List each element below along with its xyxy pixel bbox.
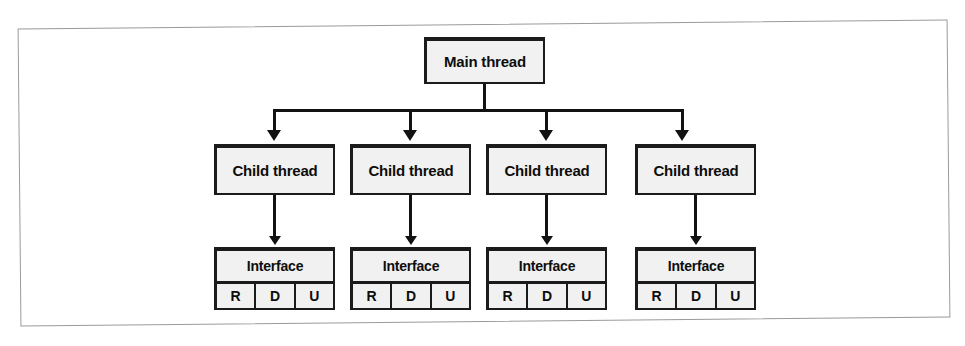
interface-4-cell-r: R	[638, 284, 677, 308]
arrowhead-child-1-to-interface-1	[269, 236, 281, 245]
node-child-thread-4-label: Child thread	[653, 163, 738, 178]
node-main-thread-label: Main thread	[444, 54, 526, 69]
interface-4-cell-d: D	[677, 284, 716, 308]
interface-1-cell-row: R D U	[217, 284, 333, 308]
node-main-thread: Main thread	[424, 37, 545, 84]
connector-bus-to-child-4	[681, 109, 684, 131]
connector-child-4-to-interface-4	[694, 195, 697, 237]
node-interface-3: Interface R D U	[486, 247, 607, 310]
node-child-thread-1-label: Child thread	[232, 163, 317, 178]
interface-1-cell-d-label: D	[270, 289, 280, 303]
interface-2-cell-u: U	[432, 284, 469, 308]
node-interface-2: Interface R D U	[350, 247, 471, 310]
node-interface-1: Interface R D U	[214, 247, 335, 310]
connector-bus-horizontal	[274, 109, 683, 112]
interface-3-cell-d-label: D	[542, 289, 552, 303]
interface-2-header-label: Interface	[383, 259, 440, 273]
connector-child-3-to-interface-3	[545, 195, 548, 237]
arrowhead-child-2-to-interface-2	[405, 236, 417, 245]
interface-1-header-label: Interface	[247, 259, 304, 273]
connector-child-1-to-interface-1	[273, 195, 276, 237]
figure-root: Main thread Child thread Interface R	[0, 0, 965, 346]
interface-3-cell-d: D	[528, 284, 567, 308]
interface-2-cell-row: R D U	[353, 284, 469, 308]
interface-1-cell-d: D	[256, 284, 295, 308]
interface-1-header: Interface	[217, 251, 333, 284]
interface-2-cell-d: D	[392, 284, 431, 308]
interface-3-cell-u-label: U	[581, 289, 591, 303]
arrowhead-bus-to-child-4	[675, 130, 689, 141]
interface-4-cell-u-label: U	[730, 289, 740, 303]
interface-4-cell-row: R D U	[638, 284, 754, 308]
interface-2-cell-r: R	[353, 284, 392, 308]
interface-4-cell-d-label: D	[691, 289, 701, 303]
interface-2-cell-r-label: R	[367, 289, 377, 303]
node-child-thread-1: Child thread	[214, 144, 335, 195]
arrowhead-child-4-to-interface-4	[690, 236, 702, 245]
interface-1-cell-r-label: R	[231, 289, 241, 303]
interface-2-cell-u-label: U	[445, 289, 455, 303]
interface-1-cell-r: R	[217, 284, 256, 308]
arrowhead-bus-to-child-2	[403, 130, 417, 141]
interface-1-cell-u: U	[296, 284, 333, 308]
connector-bus-to-child-3	[545, 109, 548, 131]
arrowhead-bus-to-child-3	[539, 130, 553, 141]
node-child-thread-2-label: Child thread	[368, 163, 453, 178]
node-child-thread-2: Child thread	[350, 144, 471, 195]
connector-bus-to-child-2	[409, 109, 412, 131]
interface-4-cell-r-label: R	[652, 289, 662, 303]
arrowhead-bus-to-child-1	[267, 130, 281, 141]
connector-child-2-to-interface-2	[409, 195, 412, 237]
node-child-thread-3-label: Child thread	[504, 163, 589, 178]
interface-1-cell-u-label: U	[309, 289, 319, 303]
diagram-canvas: Main thread Child thread Interface R	[0, 0, 965, 346]
interface-3-cell-r: R	[489, 284, 528, 308]
interface-3-header-label: Interface	[519, 259, 576, 273]
node-interface-4: Interface R D U	[635, 247, 756, 310]
connector-root-stem	[483, 84, 486, 111]
node-child-thread-3: Child thread	[486, 144, 607, 195]
interface-4-header-label: Interface	[668, 259, 725, 273]
interface-3-cell-row: R D U	[489, 284, 605, 308]
interface-2-header: Interface	[353, 251, 469, 284]
interface-4-header: Interface	[638, 251, 754, 284]
interface-4-cell-u: U	[717, 284, 754, 308]
node-child-thread-4: Child thread	[635, 144, 756, 195]
arrowhead-child-3-to-interface-3	[541, 236, 553, 245]
interface-3-cell-r-label: R	[503, 289, 513, 303]
interface-3-header: Interface	[489, 251, 605, 284]
connector-bus-to-child-1	[273, 109, 276, 131]
interface-2-cell-d-label: D	[406, 289, 416, 303]
interface-3-cell-u: U	[568, 284, 605, 308]
